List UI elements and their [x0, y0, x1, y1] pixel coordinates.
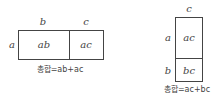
- right-label-a: a: [165, 33, 171, 43]
- left-label-b: b: [40, 17, 46, 27]
- left-cell-ab: ab: [38, 40, 50, 50]
- left-caption: 총합=ab+ac: [37, 66, 84, 74]
- left-label-c: c: [83, 17, 89, 27]
- right-caption: 총합=ac+bc: [164, 86, 210, 94]
- right-label-b: b: [165, 66, 171, 76]
- left-label-a: a: [9, 40, 15, 50]
- left-cell-ac: ac: [80, 40, 92, 50]
- right-label-c: c: [186, 4, 192, 14]
- right-cell-ac: ac: [183, 33, 195, 43]
- right-cell-bc: bc: [183, 66, 195, 76]
